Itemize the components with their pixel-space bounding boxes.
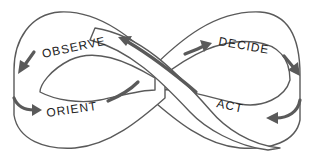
ooda-loop-diagram: OBSERVE ORIENT DECIDE ACT	[0, 0, 314, 158]
left-lobe	[14, 12, 165, 148]
